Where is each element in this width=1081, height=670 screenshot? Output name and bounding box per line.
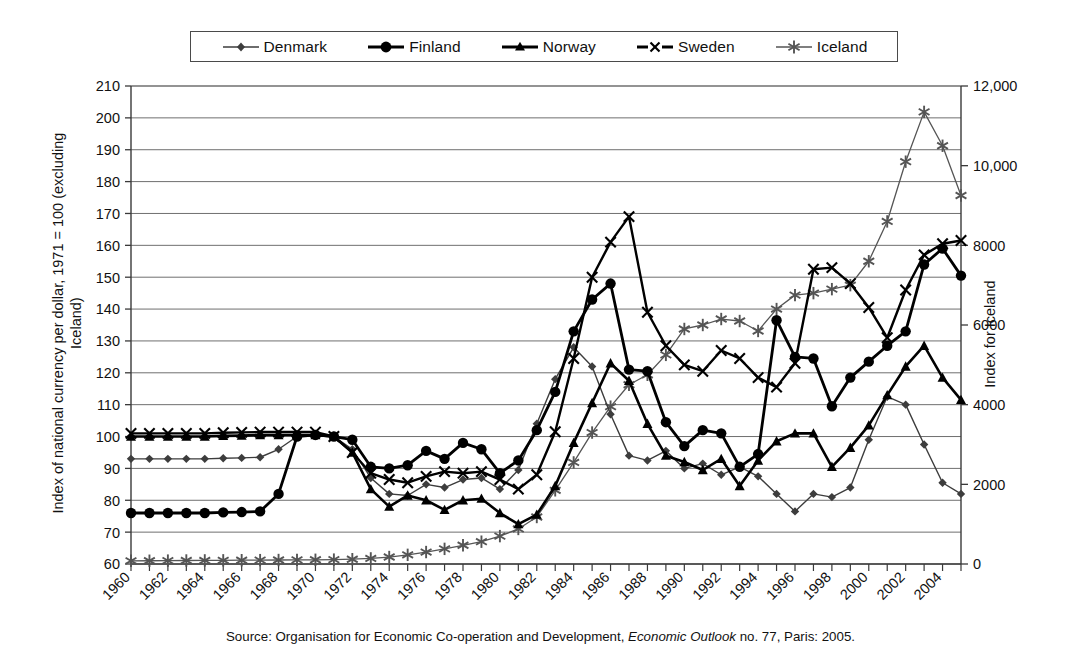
x-tick-label: 1968 [247,569,281,603]
y-tick-label-left: 70 [104,525,120,541]
y-tick-label-left: 160 [96,238,120,254]
data-point-marker [734,462,744,472]
data-point-marker [587,398,597,407]
y-tick-label-right: 8000 [973,238,1005,254]
y-tick-label-left: 80 [104,493,120,509]
y-tick-label-right: 2000 [973,477,1005,493]
data-point-marker [753,449,763,459]
y-tick-label-left: 60 [104,556,120,572]
source-italic-title: Economic Outlook [628,629,736,644]
data-point-marker [329,431,339,441]
x-tick-label: 1996 [763,569,797,603]
data-point-marker [606,358,616,367]
data-point-marker [476,535,487,547]
x-tick-label: 1986 [579,569,613,603]
x-tick-label: 1966 [210,569,244,603]
data-point-marker [771,315,781,325]
x-tick-label: 1984 [542,569,576,603]
data-point-marker [256,453,264,461]
series-line [131,347,961,511]
data-point-marker [422,480,430,488]
data-point-marker [255,506,265,516]
data-point-marker [605,278,615,288]
series-line [131,112,961,561]
data-point-marker [569,438,579,447]
data-point-marker [901,400,909,408]
data-point-marker [144,508,154,518]
source-suffix: no. 77, Paris: 2005. [736,629,855,644]
data-point-marker [458,438,468,448]
data-point-marker [274,445,282,453]
y-tick-label-left: 130 [96,333,120,349]
y-tick-label-left: 200 [96,110,120,126]
data-point-marker [900,326,910,336]
data-point-marker [919,106,930,118]
data-point-marker [845,372,855,382]
data-point-marker [900,155,911,167]
data-point-marker [808,353,818,363]
series-finland [126,243,966,518]
x-tick-label: 1962 [136,569,170,603]
data-point-marker [568,326,578,336]
data-point-marker [421,446,431,456]
data-point-marker [200,508,210,518]
y-tick-label-right: 10,000 [973,158,1017,174]
data-point-marker [882,341,892,351]
x-tick-label: 2000 [837,569,871,603]
y-tick-label-left: 150 [96,270,120,286]
chart-plot: 6070809010011012013014015016017018019020… [0,0,1081,670]
y-tick-label-left: 170 [96,206,120,222]
data-point-marker [550,387,560,397]
y-tick-label-left: 110 [97,397,120,413]
data-point-marker [366,462,376,472]
data-point-marker [164,455,172,463]
data-point-marker [716,428,726,438]
data-point-marker [882,215,893,227]
data-point-marker [402,460,412,470]
data-point-marker [642,366,652,376]
x-tick-label: 1988 [615,569,649,603]
data-point-marker [439,454,449,464]
data-point-marker [273,489,283,499]
data-point-marker [716,454,726,463]
x-tick-label: 1974 [357,569,391,603]
data-point-marker [440,483,448,491]
data-point-marker [587,294,597,304]
data-point-marker [698,425,708,435]
data-point-marker [827,401,837,411]
x-tick-label: 1980 [468,569,502,603]
data-point-marker [919,341,929,350]
y-tick-label-left: 90 [104,461,120,477]
data-point-marker [163,508,173,518]
y-axis-left: 6070809010011012013014015016017018019020… [96,78,131,572]
data-point-marker [145,455,153,463]
data-point-marker [495,468,505,478]
x-tick-label: 1990 [652,569,686,603]
data-point-marker [218,507,228,517]
data-point-marker [826,283,837,295]
x-tick-label: 1964 [173,569,207,603]
gridlines [131,86,961,564]
data-point-marker [697,319,708,331]
data-point-marker [642,419,652,428]
data-point-marker [919,259,929,269]
data-point-marker [201,455,209,463]
data-point-marker [846,483,854,491]
series-sweden [126,211,966,494]
x-tick-label: 1972 [320,569,354,603]
x-tick-label: 1992 [689,569,723,603]
x-tick-label: 2002 [874,569,908,603]
data-point-marker [956,270,966,280]
y-axis-right: 0200040006000800010,00012,000 [961,78,1017,572]
data-point-marker [643,456,651,464]
data-point-marker [366,484,376,493]
data-point-marker [347,435,357,445]
data-point-marker [717,471,725,479]
y-tick-label-right: 4000 [973,397,1005,413]
data-point-marker [476,444,486,454]
x-tick-label: 1978 [431,569,465,603]
series-iceland [126,106,967,567]
data-point-marker [937,243,947,253]
source-note: Source: Organisation for Economic Co-ope… [0,629,1081,644]
data-point-marker [568,456,579,468]
